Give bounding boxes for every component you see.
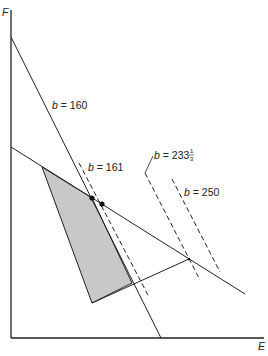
point-vertex [188, 258, 190, 260]
label-b233-frac-den: 3 [190, 156, 194, 162]
label-b233-frac-num: 1 [190, 148, 194, 154]
line-b160 [11, 37, 161, 338]
feasible-region [42, 167, 132, 303]
y-axis-label: F [2, 6, 9, 18]
label-b160: b = 160 [52, 99, 87, 111]
label-b250: b = 250 [184, 186, 219, 198]
label-b233: b = 233 [154, 149, 189, 161]
x-axis-label: E [258, 340, 266, 352]
diagram: F E b = 160 b = 161 b = 233 1 3 b = 250 [0, 0, 268, 356]
label-b161: b = 161 [88, 161, 123, 173]
point-dot-2 [99, 201, 104, 206]
leader-b233 [145, 156, 153, 173]
point-dot-1 [89, 195, 94, 200]
